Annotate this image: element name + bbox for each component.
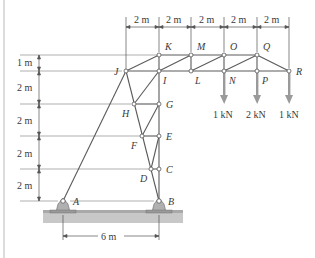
node-label-e: E: [165, 131, 172, 142]
dim-left-3: 2 m: [17, 115, 33, 126]
node-label-g: G: [166, 99, 173, 110]
node-label-r: R: [295, 66, 302, 77]
node-label-c: C: [166, 164, 173, 175]
dim-left-4: 2 m: [17, 148, 33, 159]
dim-top-1: 2 m: [134, 14, 150, 25]
node-label-b: B: [168, 196, 174, 207]
truss-members: [63, 55, 289, 201]
dim-left-2: 2 m: [17, 82, 33, 93]
dim-top-2: 2 m: [166, 14, 182, 25]
node-label-k: K: [164, 41, 173, 52]
node-label-d: D: [139, 173, 148, 184]
node-label-l: L: [194, 75, 201, 86]
node-label-j: J: [114, 66, 119, 77]
node-label-n: N: [228, 75, 237, 86]
dim-bottom: 6 m: [101, 231, 117, 242]
truss-diagram: 1 m 2 m 2 m 2 m 2 m 2 m 2 m 2 m 2 m 2 m …: [0, 0, 315, 258]
dim-top-4: 2 m: [231, 14, 247, 25]
dim-left-1: 1 m: [17, 57, 33, 68]
dim-left-5: 2 m: [17, 180, 33, 191]
node-label-a: A: [72, 196, 80, 207]
dim-top-5: 2 m: [264, 14, 280, 25]
load-label-r: 1 kN: [279, 109, 299, 120]
dim-top-3: 2 m: [199, 14, 215, 25]
load-label-n: 1 kN: [213, 109, 233, 120]
node-label-o: O: [230, 41, 237, 52]
node-label-i: I: [162, 75, 167, 86]
reference-lines: [20, 55, 159, 201]
node-label-q: Q: [263, 41, 271, 52]
left-dimension-line: [38, 55, 41, 201]
node-label-f: F: [130, 140, 138, 151]
load-label-p: 2 kN: [246, 109, 266, 120]
node-label-m: M: [196, 41, 206, 52]
node-label-p: P: [261, 75, 268, 86]
node-label-h: H: [121, 108, 130, 119]
